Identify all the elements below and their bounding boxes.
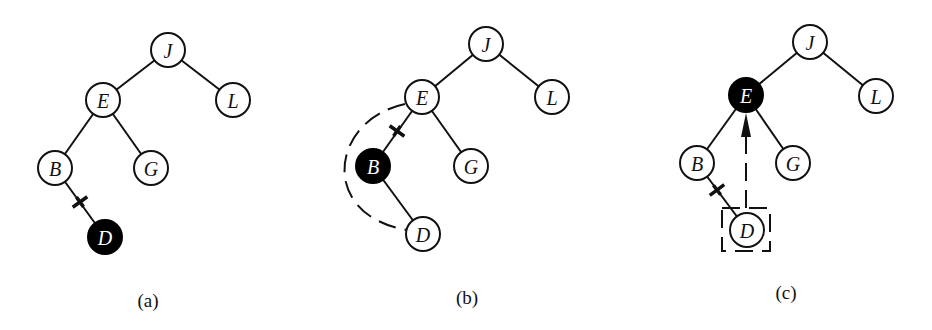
node-l: L [859,79,893,113]
node-label: L [545,87,557,109]
node-label: B [691,153,703,175]
node-e: E [729,78,763,112]
cut-mark-icon [710,185,724,196]
node-label: J [164,40,174,62]
node-e: E [86,83,120,117]
node-e: E [405,80,439,114]
node-b: B [356,149,390,183]
node-label: E [96,90,109,112]
caption-c: (c) [775,282,796,304]
node-label: B [49,158,61,180]
node-b: B [680,146,714,180]
panel-c: JELBGD [680,25,893,251]
node-d: D [88,220,122,254]
node-label: G [786,153,801,175]
node-d: D [730,213,764,247]
binary-tree-diagrams: JELBGD JELBGD JELBGD (a) (b) (c) [0,0,932,330]
node-label: G [144,158,159,180]
node-label: B [367,156,379,178]
panel-a: JELBGD [38,33,250,254]
node-d: D [406,217,440,251]
node-label: E [739,85,752,107]
node-b: B [38,151,72,185]
node-label: J [806,32,816,54]
node-j: J [151,33,185,67]
arrowhead-icon [741,113,751,137]
caption-b: (b) [456,287,478,309]
caption-a: (a) [137,290,158,312]
node-label: D [97,227,113,249]
node-l: L [535,80,569,114]
node-j: J [793,25,827,59]
node-label: D [415,224,431,246]
cut-mark-icon [73,197,88,208]
node-label: L [869,86,881,108]
panel-b: JELBGD [344,27,569,251]
node-label: D [739,220,755,242]
node-j: J [469,27,503,61]
node-label: E [415,87,428,109]
node-label: G [464,156,479,178]
node-g: G [134,151,168,185]
cut-mark-icon [390,126,405,136]
node-g: G [776,146,810,180]
node-label: L [226,90,238,112]
node-label: J [482,34,492,56]
node-l: L [216,83,250,117]
tree-deletion-figure: JELBGD JELBGD JELBGD (a) (b) (c) [0,0,932,330]
node-g: G [454,149,488,183]
